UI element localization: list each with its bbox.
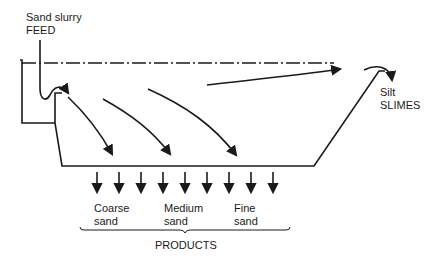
medium-line2: sand [164, 215, 203, 228]
coarse-line1: Coarse [94, 202, 129, 215]
feed-label-line1: Sand slurry [26, 11, 82, 24]
settling-arrow-fine [148, 89, 236, 155]
product-discharge-arrows [97, 172, 273, 192]
overflow-flow-arrow [207, 69, 340, 85]
fine-line2: sand [234, 215, 258, 228]
tank-outline [20, 60, 385, 166]
feed-label-line2: FEED [26, 24, 82, 37]
coarse-line2: sand [94, 215, 129, 228]
products-label: PRODUCTS [155, 239, 217, 252]
product-label-fine: Fine sand [234, 202, 258, 228]
settling-arrow-medium [103, 99, 170, 154]
slimes-label-line2: SLIMES [380, 99, 420, 112]
product-label-medium: Medium sand [164, 202, 203, 228]
product-label-coarse: Coarse sand [94, 202, 129, 228]
slimes-label-line1: Silt [380, 86, 420, 99]
medium-line1: Medium [164, 202, 203, 215]
slimes-label: Silt SLIMES [380, 86, 420, 112]
settling-arrow-coarse [68, 97, 112, 154]
classifier-diagram [0, 0, 430, 262]
fine-line1: Fine [234, 202, 258, 215]
feed-pipe [40, 40, 68, 99]
feed-label: Sand slurry FEED [26, 11, 82, 37]
